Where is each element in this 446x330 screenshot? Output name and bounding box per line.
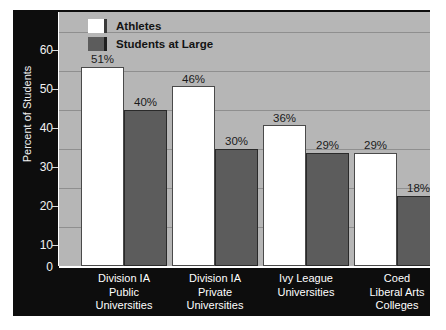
value-label-students-1: 40% <box>124 96 167 108</box>
x-category-line: Ivy League <box>263 272 349 286</box>
y-tick-label-20: 20 <box>13 200 53 212</box>
x-category-line: Private <box>172 286 258 300</box>
y-tick-mark-50 <box>52 89 58 90</box>
y-tick-label-10: 10 <box>13 239 53 251</box>
legend-swatch-athletes-icon <box>88 19 107 33</box>
legend-item-students-at-large: Students at Large <box>88 35 213 52</box>
x-category-line: Liberal Arts <box>354 286 440 300</box>
legend-item-athletes: Athletes <box>88 17 213 34</box>
x-category-line: Division IA <box>172 272 258 286</box>
bar-athletes-coed-liberal-arts <box>354 153 397 266</box>
value-label-athletes-3: 36% <box>263 112 306 124</box>
bar-chart: 51% 40% 46% 30% 36% 29% 29% 18% Athletes… <box>0 0 446 330</box>
x-axis-line <box>59 266 430 268</box>
y-tick-label-60: 60 <box>13 44 53 56</box>
y-tick-label-40: 40 <box>13 122 53 134</box>
y-tick-label-0: 0 <box>13 261 53 273</box>
x-category-line: Colleges <box>354 299 440 313</box>
y-tick-mark-40 <box>52 128 58 129</box>
y-axis-title: Percent of Students <box>21 49 33 179</box>
x-category-label-division-ia-public: Division IA Public Universities <box>81 272 167 313</box>
y-tick-mark-10 <box>52 245 58 246</box>
y-tick-mark-60 <box>52 50 58 51</box>
x-category-label-coed-liberal-arts: Coed Liberal Arts Colleges <box>354 272 440 313</box>
bar-students-division-ia-public <box>124 110 167 266</box>
x-category-line: Universities <box>81 299 167 313</box>
value-label-athletes-1: 51% <box>81 53 124 65</box>
chart-legend: Athletes Students at Large <box>88 17 213 53</box>
bar-athletes-ivy-league <box>263 125 306 266</box>
value-label-students-4: 18% <box>397 182 430 194</box>
x-category-label-division-ia-private: Division IA Private Universities <box>172 272 258 313</box>
bar-students-division-ia-private <box>215 149 258 266</box>
legend-label-athletes: Athletes <box>116 20 161 32</box>
value-label-athletes-4: 29% <box>354 139 397 151</box>
y-tick-mark-20 <box>52 206 58 207</box>
legend-swatch-students-icon <box>88 37 107 51</box>
value-label-athletes-2: 46% <box>172 73 215 85</box>
bar-students-ivy-league <box>306 153 349 266</box>
y-tick-label-30: 30 <box>13 161 53 173</box>
value-label-students-2: 30% <box>215 135 258 147</box>
y-axis-line <box>58 12 59 266</box>
x-category-line: Universities <box>172 299 258 313</box>
x-category-line: Division IA <box>81 272 167 286</box>
x-category-line: Coed <box>354 272 440 286</box>
value-label-students-3: 29% <box>306 139 349 151</box>
bar-students-coed-liberal-arts <box>397 196 430 266</box>
x-category-label-ivy-league: Ivy League Universities <box>263 272 349 299</box>
bar-athletes-division-ia-private <box>172 86 215 266</box>
y-tick-mark-30 <box>52 167 58 168</box>
x-category-line: Public <box>81 286 167 300</box>
y-tick-label-50: 50 <box>13 83 53 95</box>
bar-athletes-division-ia-public <box>81 67 124 266</box>
x-category-line: Universities <box>263 286 349 300</box>
legend-label-students-at-large: Students at Large <box>116 38 213 50</box>
plot-area: 51% 40% 46% 30% 36% 29% 29% 18% Athletes… <box>59 12 430 266</box>
